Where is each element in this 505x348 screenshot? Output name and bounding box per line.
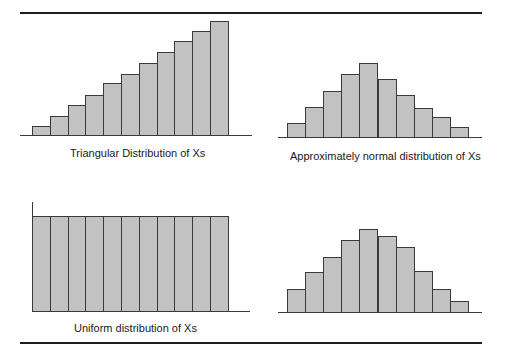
histogram-bar — [305, 272, 324, 313]
bottom-rule — [20, 342, 482, 344]
histogram-bar — [378, 236, 397, 313]
normal-histogram-bottom — [0, 0, 505, 348]
x-axis-baseline — [278, 312, 482, 313]
histogram-bar — [359, 229, 378, 313]
histogram-bar — [341, 240, 360, 313]
histogram-bar — [323, 257, 342, 313]
histogram-bar — [396, 247, 415, 313]
histogram-bar — [287, 289, 306, 313]
histogram-bar — [414, 271, 433, 313]
histogram-bar — [432, 289, 451, 313]
